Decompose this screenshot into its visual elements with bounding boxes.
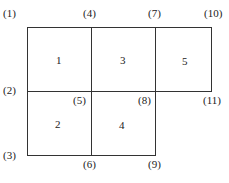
element-label-3: 3 — [120, 55, 126, 66]
node-label-11: (11) — [203, 95, 221, 106]
node-label-6: (6) — [83, 159, 96, 170]
element-label-4: 4 — [119, 120, 125, 131]
node-label-10: (10) — [204, 8, 222, 19]
node-label-4: (4) — [83, 8, 96, 19]
element-label-1: 1 — [56, 55, 62, 66]
node-label-1: (1) — [3, 8, 16, 19]
node-label-8: (8) — [138, 95, 151, 106]
node-label-9: (9) — [148, 159, 161, 170]
node-label-5: (5) — [73, 95, 86, 106]
node-label-2: (2) — [3, 85, 16, 96]
element-label-2: 2 — [55, 119, 61, 130]
node-label-7: (7) — [148, 8, 161, 19]
node-label-3: (3) — [3, 150, 16, 161]
mesh-grid — [0, 0, 229, 183]
element-label-5: 5 — [182, 56, 188, 67]
